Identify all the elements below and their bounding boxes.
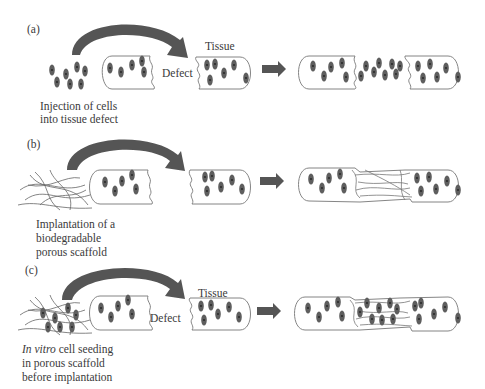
straight-arrow-icon [260, 173, 284, 189]
curved-arrow-icon [67, 139, 185, 171]
scaffold-fibers [18, 170, 92, 210]
caption-c-line-1: In vitro cell seeding [22, 343, 113, 357]
caption-b-line-2: biodegradable [36, 232, 101, 246]
curved-arrow-icon [72, 24, 188, 58]
caption-a-line-2: into tissue defect [40, 113, 118, 127]
panel-label-a: (a) [27, 23, 40, 36]
defect-label-a: Defect [162, 67, 193, 80]
injected-cells [49, 61, 88, 89]
caption-c-rest: cell seeding [56, 343, 113, 355]
panel-c [18, 268, 461, 335]
curved-arrow-icon [62, 268, 185, 300]
panel-a [49, 24, 461, 89]
caption-b-line-3: porous scaffold [36, 246, 107, 260]
tissue-label-c: Tissue [198, 287, 228, 300]
panel-label-c: (c) [25, 264, 38, 277]
caption-c-line-2: in porous scaffold [22, 357, 105, 371]
caption-b-line-1: Implantation of a [36, 218, 115, 232]
tissue-label-a: Tissue [205, 40, 235, 53]
defect-label-c: Defect [150, 312, 181, 325]
caption-a-line-1: Injection of cells [40, 100, 117, 114]
panel-label-b: (b) [27, 138, 40, 151]
diagram-canvas [0, 0, 485, 389]
straight-arrow-icon [257, 303, 281, 319]
caption-c-italic: In vitro [22, 343, 56, 355]
panel-b [18, 139, 461, 210]
caption-c-line-3: before implantation [22, 371, 112, 385]
straight-arrow-icon [262, 61, 286, 77]
